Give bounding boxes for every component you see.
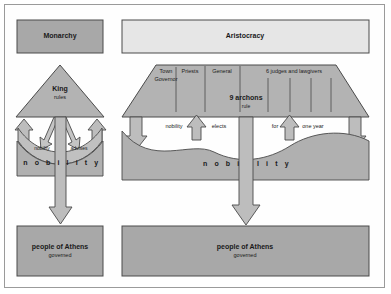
one-year-up-arrow [280, 115, 299, 140]
monarchy-people-box [17, 226, 103, 276]
diagram-canvas: Monarchy King rules nobility advises n o… [0, 0, 391, 294]
aristocracy-header-box [122, 20, 369, 53]
aristocracy-people-box [122, 226, 369, 276]
archons-trapezoid [122, 65, 369, 117]
monarchy-header-box [17, 20, 103, 53]
king-pyramid [16, 65, 104, 117]
nobility-elects-up-arrow [187, 115, 206, 140]
diagram-graphics [0, 0, 391, 294]
